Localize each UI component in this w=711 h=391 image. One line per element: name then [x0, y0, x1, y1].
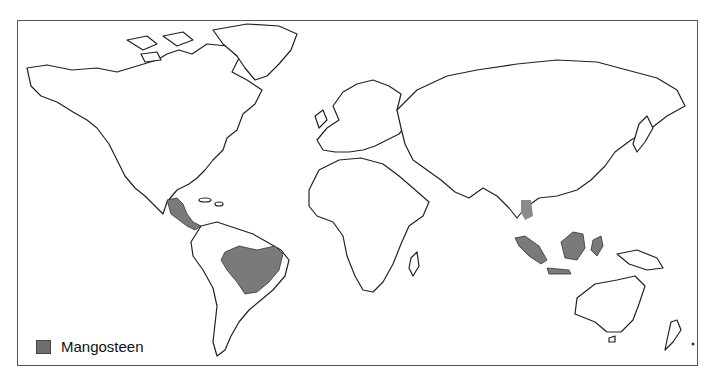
- legend-swatch-mangosteen: [36, 340, 51, 354]
- sulawesi-region: [591, 236, 603, 256]
- java-region: [547, 268, 571, 274]
- sumatra-region: [515, 236, 547, 264]
- indochina-region: [521, 200, 533, 220]
- borneo-region: [561, 232, 585, 260]
- map-legend: Mangosteen: [36, 338, 144, 355]
- legend-label-mangosteen: Mangosteen: [61, 338, 144, 355]
- europe: [317, 80, 409, 152]
- world-map: [17, 20, 698, 366]
- north-america: [27, 44, 262, 214]
- south-america: [191, 222, 289, 356]
- central-america-region: [167, 198, 201, 230]
- australia: [575, 276, 645, 332]
